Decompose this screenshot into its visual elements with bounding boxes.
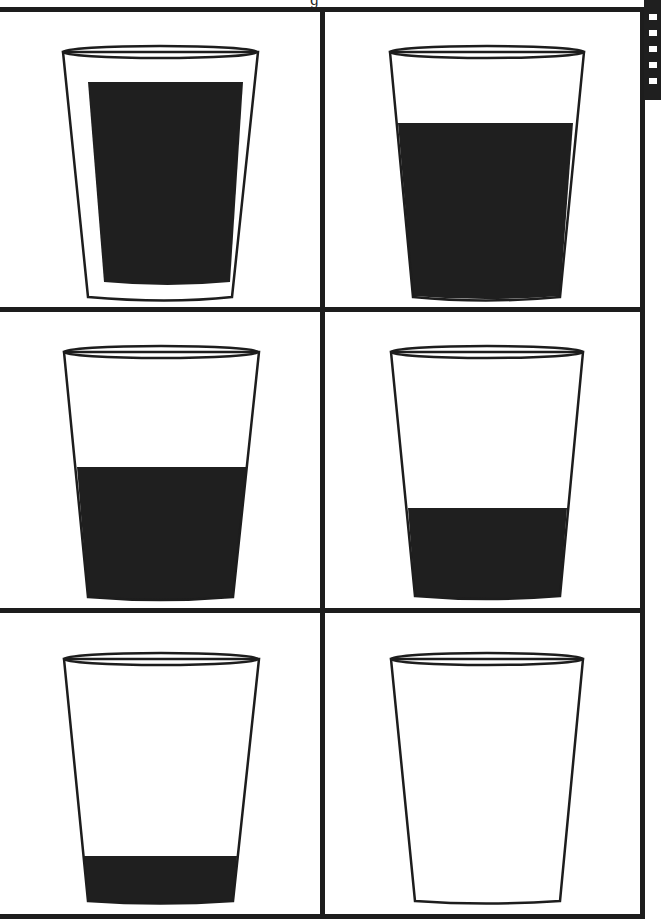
page-edge-tab (644, 0, 661, 100)
glass-icon (325, 12, 640, 307)
glass-icon (0, 12, 320, 307)
glass-cell-6 (325, 613, 640, 914)
grid-line-right (640, 7, 645, 919)
glass-icon (0, 312, 320, 608)
glass-cell-5 (0, 613, 320, 914)
glass-cell-4 (325, 312, 640, 608)
glass-icon (325, 613, 640, 914)
glass-cell-1 (0, 12, 320, 307)
glass-cell-2 (325, 12, 640, 307)
glass-icon (0, 613, 320, 914)
glass-cell-3 (0, 312, 320, 608)
glass-icon (325, 312, 640, 608)
